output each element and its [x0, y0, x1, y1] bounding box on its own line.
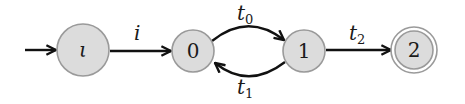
state-1: 1: [283, 30, 325, 72]
state-label-2: 2: [408, 38, 421, 62]
state-iota: ι: [57, 24, 109, 76]
edge-label-t1: t1: [237, 75, 253, 101]
edge-1-to-2: t2: [326, 21, 391, 50]
edge-label-t2: t2: [349, 21, 365, 47]
state-label-iota: ι: [79, 38, 87, 62]
state-label-0: 0: [187, 39, 200, 63]
state-label-1: 1: [298, 39, 311, 63]
automaton-diagram: i t0 t1 t2 ι 0 1 2: [0, 0, 465, 104]
edge-0-to-1: t0: [212, 1, 284, 41]
state-2-accepting: 2: [391, 27, 437, 73]
state-0: 0: [172, 30, 214, 72]
edge-iota-to-0: i: [110, 21, 171, 51]
edge-label-t0: t0: [237, 1, 253, 27]
edge-1-to-0: t1: [215, 62, 285, 101]
edge-label-i: i: [134, 21, 140, 45]
